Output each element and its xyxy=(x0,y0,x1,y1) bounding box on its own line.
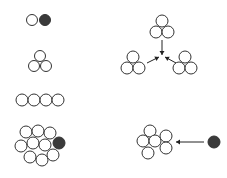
trimer-top-group xyxy=(150,15,174,38)
trimer-bottom-left-group xyxy=(121,51,145,74)
open-particle xyxy=(27,15,38,26)
open-particle xyxy=(149,135,161,147)
trimer-bottom-right-group xyxy=(173,51,197,74)
open-particle xyxy=(156,15,168,27)
open-particle xyxy=(35,51,46,62)
trimer-group xyxy=(29,51,52,72)
open-particle xyxy=(44,127,56,139)
arrow-from-right-icon xyxy=(165,57,176,63)
open-particle xyxy=(47,149,59,161)
open-particle xyxy=(27,137,39,149)
open-particle xyxy=(39,139,51,151)
arrow-from-left-icon xyxy=(147,57,159,63)
flower-cluster-group xyxy=(137,125,172,159)
open-particle xyxy=(24,151,36,163)
open-particle xyxy=(173,62,185,74)
open-particle xyxy=(32,125,44,137)
arrow-to-flower-icon xyxy=(176,140,204,145)
filled-particle xyxy=(53,137,65,149)
open-particle xyxy=(142,147,154,159)
open-particle xyxy=(52,94,64,106)
open-particle xyxy=(15,140,27,152)
open-particle xyxy=(150,26,162,38)
open-particle xyxy=(121,62,133,74)
open-particle xyxy=(40,94,52,106)
filled-particle xyxy=(40,15,51,26)
dimer-open-filled-group xyxy=(27,15,51,26)
open-particle xyxy=(179,51,191,63)
open-particle xyxy=(28,94,40,106)
open-particle xyxy=(137,135,149,147)
cluster-with-filled-group xyxy=(15,125,65,166)
open-particle xyxy=(41,61,52,72)
open-particle xyxy=(160,130,172,142)
open-particle xyxy=(36,154,48,166)
arrow-down-from-top-icon xyxy=(160,40,165,55)
open-particle xyxy=(20,126,32,138)
open-particle xyxy=(160,142,172,154)
open-particle xyxy=(185,62,197,74)
open-particle xyxy=(127,51,139,63)
open-particle xyxy=(133,62,145,74)
linear-chain-group xyxy=(16,94,64,106)
free-particle-group xyxy=(208,136,220,148)
open-particle xyxy=(16,94,28,106)
open-particle xyxy=(162,26,174,38)
filled-particle xyxy=(208,136,220,148)
aggregation-diagram xyxy=(0,0,227,178)
open-particle xyxy=(29,61,40,72)
